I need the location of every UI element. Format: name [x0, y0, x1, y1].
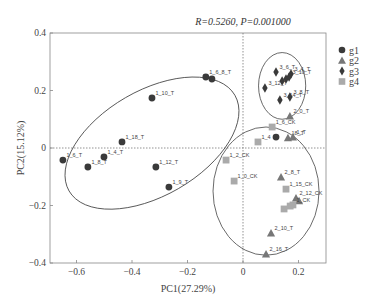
chart-title: R=0.5260, P=0.001000: [194, 16, 291, 27]
point-g1-circle-icon: [84, 164, 91, 171]
legend-label-g1: g1: [349, 45, 359, 56]
point-g1-circle-icon: [101, 154, 108, 161]
point-g3-diamond-icon: [277, 95, 282, 105]
y-tick-label: −0.4: [29, 258, 46, 268]
y-tick-label: 0: [41, 143, 46, 153]
point-label: 1_0_CK: [238, 173, 258, 179]
point-label: 2_8_T: [285, 169, 301, 175]
point-g1-circle-icon: [60, 157, 67, 164]
legend-label-g3: g3: [349, 66, 359, 77]
legend-label-g4: g4: [349, 76, 359, 87]
point-g1-circle-icon: [149, 95, 156, 102]
point-g1-circle-icon: [152, 164, 159, 171]
point-label: 3_10_T: [293, 69, 312, 75]
point-g3-diamond-icon: [273, 67, 278, 77]
point-label: 2_12_CK: [300, 190, 323, 196]
point-g4-square-icon: [255, 139, 262, 146]
point-g3-diamond-icon: [262, 83, 267, 93]
x-tick-label: −0.2: [179, 267, 196, 277]
point-label: 1_6_8_T: [209, 69, 231, 75]
point-label: 2_10_T: [275, 225, 294, 231]
point-g1-circle-icon: [202, 74, 209, 81]
point-g1-circle-icon: [273, 134, 280, 141]
point-label: 2_0_T: [293, 108, 309, 114]
point-label: 1_6_T: [66, 152, 82, 158]
legend-g4-square-icon: [339, 78, 346, 85]
point-label: 1_9_T: [172, 179, 188, 185]
point-label: 1_CK: [296, 197, 310, 203]
x-axis: −0.6−0.4−0.200.2: [68, 260, 305, 277]
point-g4-square-icon: [223, 157, 230, 164]
point-label: 3_8_T: [293, 89, 309, 95]
point-g1-circle-icon: [166, 184, 173, 191]
point-label: 1_4: [261, 134, 270, 140]
point-g4-square-icon: [231, 178, 238, 185]
point-label: 1_2_CK: [230, 152, 250, 158]
point-label: 1_15_CK: [290, 181, 313, 187]
point-g4-square-icon: [269, 124, 276, 131]
point-label: 1_10_T: [155, 90, 174, 96]
y-tick-label: 0.2: [34, 86, 46, 96]
legend-label-g2: g2: [349, 55, 359, 66]
point-g1-circle-icon: [209, 76, 216, 83]
legend-g3-diamond-icon: [339, 66, 344, 75]
pca-scatter-chart: R=0.5260, P=0.001000 −0.6−0.4−0.200.2 0.…: [0, 0, 377, 306]
point-g4-square-icon: [287, 203, 294, 210]
point-label: 1_12_T: [159, 159, 178, 165]
data-points: 1_6_T1_8_T1_4_T1_18_T1_10_T1_6_8_T1_12_T…: [60, 64, 323, 257]
point-g1-circle-icon: [119, 139, 126, 146]
point-label: 1_T: [296, 129, 306, 135]
point-g4-square-icon: [283, 186, 290, 193]
y-axis-title: PC2(15.12%): [15, 121, 27, 176]
point-label: 1_4_T: [107, 149, 123, 155]
ellipse-g1: [43, 50, 261, 237]
point-label: 1_6_CK: [276, 119, 296, 125]
y-tick-label: −0.2: [29, 201, 46, 211]
legend-g1-circle-icon: [339, 47, 346, 54]
legend-g2-triangle-icon: [338, 57, 346, 64]
legend: g1g2g3g4: [338, 45, 359, 88]
y-tick-label: 0.4: [34, 28, 46, 38]
x-axis-title: PC1(27.29%): [161, 283, 216, 295]
x-tick-label: 0.2: [293, 267, 305, 277]
x-tick-label: −0.4: [123, 267, 140, 277]
x-tick-label: 0: [241, 267, 246, 277]
point-label: 1_18_T: [126, 134, 145, 140]
y-axis: 0.40.20−0.2−0.4: [29, 28, 53, 268]
point-g4-square-icon: [281, 206, 288, 213]
point-label: 2_16_T: [270, 246, 289, 252]
x-tick-label: −0.6: [68, 267, 85, 277]
